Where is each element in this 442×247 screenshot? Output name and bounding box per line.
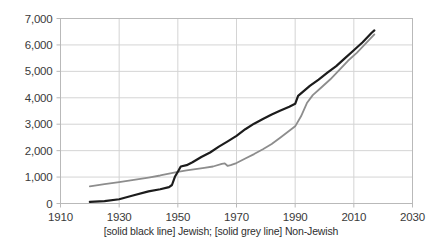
- series-line-jewish: [90, 30, 375, 202]
- series-line-non-jewish: [90, 34, 375, 186]
- y-axis-tick-label: 3,000: [25, 118, 53, 130]
- chart-caption: [solid black line] Jewish; [solid grey l…: [0, 225, 442, 237]
- y-axis-tick-label: 2,000: [25, 145, 53, 157]
- x-axis-tick-label: 1930: [107, 211, 132, 223]
- y-axis-tick-label: 1,000: [25, 171, 53, 183]
- y-axis-tick-label: 6,000: [25, 39, 53, 51]
- x-axis-tick-label: 2030: [400, 211, 425, 223]
- x-axis-tick-label: 1910: [48, 211, 73, 223]
- x-axis-tick-labels: 1910193019501970199020102030: [48, 211, 425, 223]
- line-chart-plot: 01,0002,0003,0004,0005,0006,0007,000 191…: [0, 0, 442, 247]
- y-axis-tick-label: 7,000: [25, 13, 53, 25]
- y-axis-tick-labels: 01,0002,0003,0004,0005,0006,0007,000: [25, 13, 53, 210]
- data-series-group: [90, 30, 375, 202]
- y-axis-tick-label: 4,000: [25, 92, 53, 104]
- y-axis-tick-label: 0: [46, 198, 52, 210]
- x-axis-tick-label: 1950: [165, 211, 190, 223]
- x-axis-tick-label: 1990: [283, 211, 308, 223]
- chart-figure: 01,0002,0003,0004,0005,0006,0007,000 191…: [0, 0, 442, 247]
- x-axis-tick-label: 1970: [224, 211, 249, 223]
- y-axis-tick-label: 5,000: [25, 65, 53, 77]
- x-axis-tick-label: 2010: [341, 211, 366, 223]
